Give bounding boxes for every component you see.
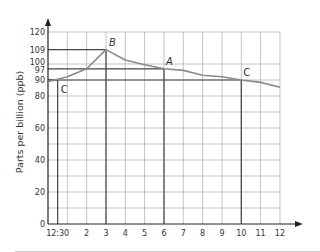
y-axis-tick-labels: 0204060809097100109120 [30, 28, 45, 229]
x-tick-label: 6 [161, 229, 166, 238]
y-tick-label: 97 [35, 66, 45, 75]
x-tick-label: 5 [142, 229, 147, 238]
y-tick-label: 0 [40, 220, 45, 229]
x-tick-label: 2 [84, 229, 89, 238]
point-label-c: C [61, 84, 68, 95]
x-tick-label: 7 [181, 229, 186, 238]
x-axis-arrow-icon [295, 221, 303, 227]
y-tick-label: 120 [30, 28, 45, 37]
y-tick-label: 100 [30, 58, 45, 67]
y-tick-label: 60 [35, 124, 45, 133]
y-axis-label: Parts per billion (ppb) [14, 71, 25, 173]
x-tick-label: 11 [256, 229, 266, 238]
y-tick-label: 40 [35, 156, 45, 165]
y-tick-label: 109 [30, 46, 45, 55]
x-tick-label: 4 [123, 229, 128, 238]
point-label-a: A [165, 56, 173, 67]
x-axis-tick-labels: 12:3023456789101112 [46, 229, 285, 238]
y-axis-arrow-icon [45, 18, 51, 26]
x-tick-label: 9 [219, 229, 224, 238]
y-tick-label: 90 [35, 76, 45, 85]
x-tick-label: 3 [103, 229, 108, 238]
x-tick-label: 10 [236, 229, 246, 238]
x-tick-label: 8 [200, 229, 205, 238]
point-label-c: C [243, 67, 250, 78]
y-tick-label: 20 [35, 188, 45, 197]
x-tick-label: 12:30 [46, 229, 69, 238]
point-label-b: B [109, 37, 116, 48]
y-tick-label: 80 [35, 92, 45, 101]
x-tick-label: 12 [275, 229, 285, 238]
line-chart: 12:3023456789101112 02040608090971001091… [0, 0, 320, 252]
